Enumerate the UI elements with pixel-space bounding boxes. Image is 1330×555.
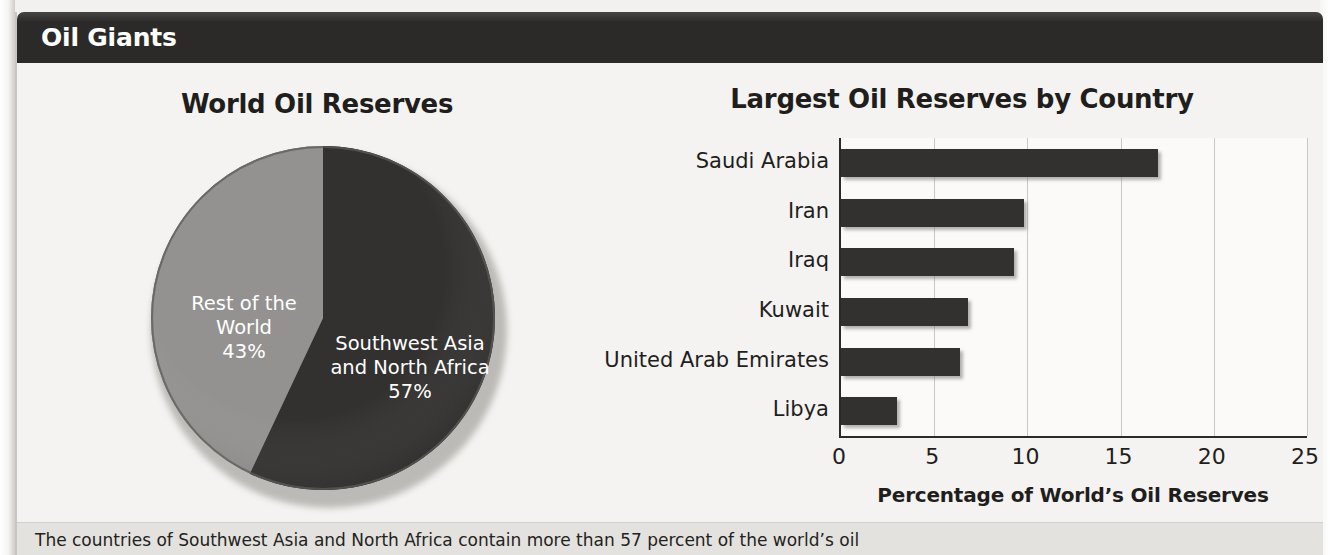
bar-label-iraq: Iraq [569, 248, 829, 272]
bar-chart-title: Largest Oil Reserves by Country [617, 84, 1307, 114]
bar-label-iran: Iran [569, 199, 829, 223]
pie-label-swa-line1: Southwest Asia [313, 332, 507, 356]
bar-label-libya: Libya [569, 397, 829, 421]
pie-label-rest-line1: Rest of the [169, 292, 319, 316]
bar-plot-area [839, 138, 1307, 438]
bar-libya [841, 397, 897, 425]
feature-title: Oil Giants [41, 23, 177, 52]
feature-caption: The countries of Southwest Asia and Nort… [35, 530, 859, 550]
page-edge-left [0, 0, 15, 555]
bar-iraq [841, 248, 1014, 276]
pie-label-rest-line2: World [169, 316, 319, 340]
bar-label-united-arab-emirates: United Arab Emirates [569, 348, 829, 372]
x-tick-25: 25 [1291, 444, 1319, 469]
bar-iran [841, 199, 1024, 227]
gridline-10 [1027, 138, 1028, 436]
pie-chart-panel: World Oil Reserves [17, 63, 617, 522]
pie-chart-graphic: Rest of the World 43% Southwest Asia and… [145, 140, 513, 515]
gridline-15 [1121, 138, 1122, 436]
gridline-20 [1214, 138, 1215, 436]
feature-page: Oil Giants World Oil Reserves [0, 0, 1330, 555]
pie-chart-title: World Oil Reserves [17, 89, 617, 119]
bar-label-saudi-arabia: Saudi Arabia [569, 149, 829, 173]
feature-header-bar: Oil Giants [17, 12, 1323, 63]
oil-giants-feature-box: Oil Giants World Oil Reserves [15, 12, 1321, 555]
pie-label-swa-value: 57% [313, 380, 507, 404]
bar-chart-graphic: Saudi ArabiaIranIraqKuwaitUnited Arab Em… [633, 138, 1307, 463]
x-tick-0: 0 [832, 444, 846, 469]
x-tick-20: 20 [1198, 444, 1226, 469]
gridline-25 [1307, 138, 1308, 436]
pie-label-swa-line2: and North Africa [313, 356, 507, 380]
pie-label-rest-value: 43% [169, 340, 319, 364]
bar-x-axis-title: Percentage of World’s Oil Reserves [839, 483, 1307, 507]
pie-label-rest-of-world: Rest of the World 43% [169, 292, 319, 364]
caption-band: The countries of Southwest Asia and Nort… [17, 522, 1323, 555]
charts-content-area: World Oil Reserves [17, 63, 1323, 522]
gridline-5 [934, 138, 935, 436]
bar-label-kuwait: Kuwait [569, 298, 829, 322]
bar-united-arab-emirates [841, 348, 960, 376]
bar-chart-panel: Largest Oil Reserves by Country Saudi Ar… [617, 63, 1323, 522]
x-tick-10: 10 [1011, 444, 1039, 469]
bar-saudi-arabia [841, 149, 1158, 177]
x-tick-5: 5 [925, 444, 939, 469]
bar-kuwait [841, 298, 968, 326]
pie-label-southwest-asia: Southwest Asia and North Africa 57% [313, 332, 507, 404]
x-tick-15: 15 [1105, 444, 1133, 469]
